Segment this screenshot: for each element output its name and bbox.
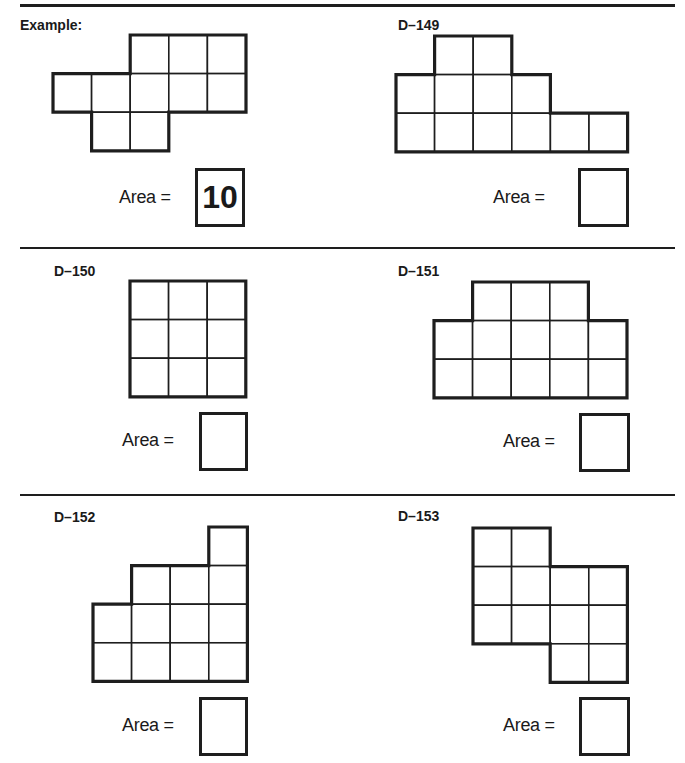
grid-cell <box>550 644 589 683</box>
grid-cell <box>170 566 209 605</box>
problem-label: Example: <box>20 17 82 33</box>
grid-cell <box>511 359 550 398</box>
grid-cell <box>169 358 208 397</box>
grid-cell <box>209 527 248 566</box>
grid-cell <box>130 281 169 320</box>
answer-box[interactable] <box>578 168 629 227</box>
grid-cell <box>169 35 208 74</box>
grid-cell <box>53 74 92 113</box>
answer-box[interactable] <box>199 412 248 471</box>
answer-box[interactable]: 10 <box>195 168 245 227</box>
grid-cell <box>588 359 627 398</box>
area-label: Area = <box>122 430 174 450</box>
grid-cell <box>207 35 246 74</box>
grid-cell <box>132 643 171 682</box>
grid-cell <box>512 605 551 644</box>
grid-cell <box>473 605 512 644</box>
shape-grid <box>53 35 246 151</box>
grid-cell <box>473 359 512 398</box>
grid-cell <box>589 644 628 683</box>
grid-cell <box>473 113 512 152</box>
answer-box[interactable] <box>199 697 248 756</box>
answer-box[interactable] <box>579 413 630 472</box>
grid-cell <box>209 566 248 605</box>
grid-cell <box>512 113 551 152</box>
grid-cell <box>435 75 474 114</box>
grid-cell <box>92 74 131 113</box>
grid-cell <box>132 566 171 605</box>
grid-cell <box>511 282 550 321</box>
grid-cell <box>396 113 435 152</box>
grid-cell <box>589 605 628 644</box>
area-label: Area = <box>493 187 545 207</box>
grid-cell <box>473 528 512 567</box>
shape-grid <box>473 528 627 682</box>
grid-cell <box>130 74 169 113</box>
grid-cell <box>589 113 628 152</box>
shape-grid <box>434 282 627 398</box>
grid-cell <box>92 112 131 151</box>
grid-cell <box>169 74 208 113</box>
problem-label: D–153 <box>398 508 439 524</box>
grid-cell <box>473 321 512 360</box>
grid-cell <box>130 358 169 397</box>
grid-cell <box>209 643 248 682</box>
grid-cell <box>434 321 473 360</box>
grid-cell <box>396 75 435 114</box>
area-label: Area = <box>119 187 171 207</box>
grid-cell <box>207 74 246 113</box>
shape-grid <box>130 281 246 397</box>
grid-cell <box>169 281 208 320</box>
grid-cell <box>130 320 169 359</box>
grid-cell <box>434 359 473 398</box>
grid-cell <box>207 358 246 397</box>
grid-cell <box>435 36 474 75</box>
grid-cell <box>512 528 551 567</box>
answer-box[interactable] <box>579 697 630 756</box>
grid-cell <box>207 320 246 359</box>
area-label: Area = <box>122 715 174 735</box>
grid-cell <box>473 75 512 114</box>
divider-row-2 <box>20 494 675 496</box>
grid-cell <box>550 567 589 606</box>
top-rule <box>20 4 675 7</box>
grid-cell <box>473 567 512 606</box>
grid-cell <box>473 282 512 321</box>
grid-cell <box>511 321 550 360</box>
grid-cell <box>550 359 589 398</box>
grid-cell <box>550 321 589 360</box>
shape-grid <box>396 36 628 152</box>
grid-cell <box>170 643 209 682</box>
grid-cell <box>132 604 171 643</box>
grid-cell <box>512 567 551 606</box>
grid-cell <box>169 320 208 359</box>
area-label: Area = <box>503 715 555 735</box>
grid-cell <box>550 605 589 644</box>
grid-cell <box>589 567 628 606</box>
grid-cell <box>473 36 512 75</box>
grid-cell <box>550 282 589 321</box>
grid-cell <box>209 604 248 643</box>
grid-cell <box>588 321 627 360</box>
grid-cell <box>93 604 132 643</box>
grid-cell <box>130 35 169 74</box>
grid-cell <box>512 75 551 114</box>
divider-row-1 <box>20 247 675 249</box>
shape-grid <box>93 527 247 681</box>
grid-cell <box>93 643 132 682</box>
problem-label: D–149 <box>398 17 439 33</box>
grid-cell <box>130 112 169 151</box>
grid-cell <box>207 281 246 320</box>
problem-label: D–150 <box>54 263 95 279</box>
grid-cell <box>435 113 474 152</box>
area-label: Area = <box>503 431 555 451</box>
grid-cell <box>170 604 209 643</box>
problem-label: D–152 <box>54 509 95 525</box>
grid-cell <box>550 113 589 152</box>
problem-label: D–151 <box>398 263 439 279</box>
